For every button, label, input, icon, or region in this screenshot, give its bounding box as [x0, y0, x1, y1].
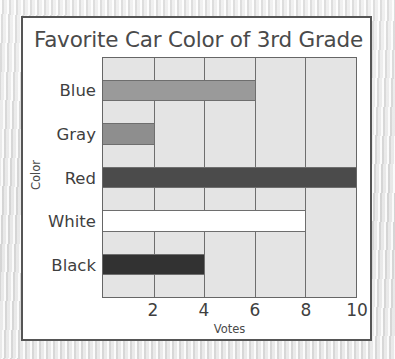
x-axis-labels: 246810	[102, 300, 357, 322]
x-axis-title: Votes	[102, 322, 357, 336]
x-tick-label-6: 6	[250, 300, 261, 320]
bar-black	[103, 254, 204, 276]
bar-blue	[103, 80, 255, 102]
x-tick-label-4: 4	[199, 300, 210, 320]
y-tick-label-black: Black	[51, 256, 96, 275]
bar-gray	[103, 123, 154, 145]
chart-title: Favorite Car Color of 3rd Grade	[23, 27, 374, 52]
y-axis-labels: BlueGrayRedWhiteBlack	[23, 57, 102, 298]
plot-area	[102, 57, 357, 298]
y-tick-label-blue: Blue	[59, 80, 96, 99]
x-tick-label-10: 10	[346, 300, 368, 320]
chart-card: Favorite Car Color of 3rd Grade Color Bl…	[21, 16, 372, 341]
x-tick-label-2: 2	[148, 300, 159, 320]
bar-red	[103, 167, 356, 189]
y-tick-label-red: Red	[65, 168, 96, 187]
y-tick-label-white: White	[48, 212, 96, 231]
y-tick-label-gray: Gray	[57, 124, 96, 143]
x-tick-label-8: 8	[301, 300, 312, 320]
bar-white	[103, 210, 305, 232]
